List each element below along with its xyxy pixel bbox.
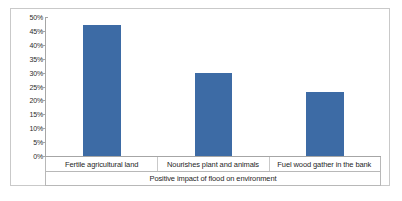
y-axis-tick-label: 25% [15, 83, 43, 90]
y-axis-tick-mark [42, 31, 45, 32]
y-axis-tick-mark [42, 45, 45, 46]
bar[interactable] [306, 92, 344, 156]
category-label: Fuel wood gather in the bank [269, 157, 380, 171]
y-axis-tick-mark [42, 114, 45, 115]
y-axis-tick-label: 50% [15, 14, 43, 21]
y-axis-tick-mark [42, 100, 45, 101]
bar-series [46, 17, 381, 156]
bar[interactable] [83, 25, 121, 156]
y-axis-tick-label: 40% [15, 41, 43, 48]
category-label: Fertile agricultural land [46, 157, 157, 171]
y-axis-tick-label: 10% [15, 125, 43, 132]
category-label: Nourishes plant and animals [157, 157, 268, 171]
y-axis-tick-mark [42, 73, 45, 74]
bar[interactable] [195, 73, 233, 156]
y-axis-tick-mark [42, 59, 45, 60]
y-axis-tick-label: 30% [15, 69, 43, 76]
bar-slot [158, 17, 270, 156]
y-axis-tick-label: 20% [15, 97, 43, 104]
bar-slot [46, 17, 158, 156]
y-axis-tick-mark [42, 87, 45, 88]
x-axis-title: Positive impact of flood on environment [149, 174, 276, 183]
category-separator [269, 157, 270, 171]
y-axis-tick-label: 45% [15, 27, 43, 34]
y-axis-tick-mark [42, 142, 45, 143]
y-axis-tick-label: 5% [15, 139, 43, 146]
y-axis-tick-labels: 0%5%10%15%20%25%30%35%40%45%50% [15, 17, 43, 156]
y-axis-tick-mark [42, 128, 45, 129]
y-axis-tick-label: 0% [15, 153, 43, 160]
plot-region: 0%5%10%15%20%25%30%35%40%45%50% Fertile … [11, 9, 391, 187]
y-axis-tick-label: 35% [15, 55, 43, 62]
y-axis-tick-label: 15% [15, 111, 43, 118]
x-axis-title-band: Positive impact of flood on environment [45, 172, 381, 186]
bar-slot [269, 17, 381, 156]
chart-frame: 0%5%10%15%20%25%30%35%40%45%50% Fertile … [10, 8, 390, 186]
category-separator [157, 157, 158, 171]
category-label-band: Fertile agricultural landNourishes plant… [45, 157, 381, 172]
